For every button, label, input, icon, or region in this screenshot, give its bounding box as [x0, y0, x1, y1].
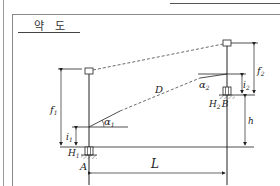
label-H1: H1	[67, 148, 80, 159]
label-L: L	[150, 157, 159, 171]
ground-hatch-a	[81, 155, 97, 159]
target-b	[223, 40, 231, 46]
instrument-b	[223, 87, 231, 95]
label-f2: f2	[256, 65, 265, 77]
target-a	[85, 68, 93, 74]
label-alpha2: α2	[199, 79, 210, 91]
dashed-a-to-b	[93, 44, 223, 70]
label-h: h	[248, 116, 254, 126]
instrument-a	[85, 147, 93, 155]
label-D: D	[154, 84, 163, 95]
survey-diagram: D α1 α2 f1 i1 f2 i2 H1 H2B A h L	[0, 0, 280, 186]
label-alpha1: α1	[104, 116, 115, 128]
label-A: A	[79, 161, 87, 172]
label-i2: i2	[243, 80, 250, 91]
label-f1: f1	[49, 104, 58, 116]
sight-line-b	[200, 74, 227, 78]
label-H2B: H2B	[208, 99, 229, 110]
label-i1: i1	[66, 132, 73, 143]
